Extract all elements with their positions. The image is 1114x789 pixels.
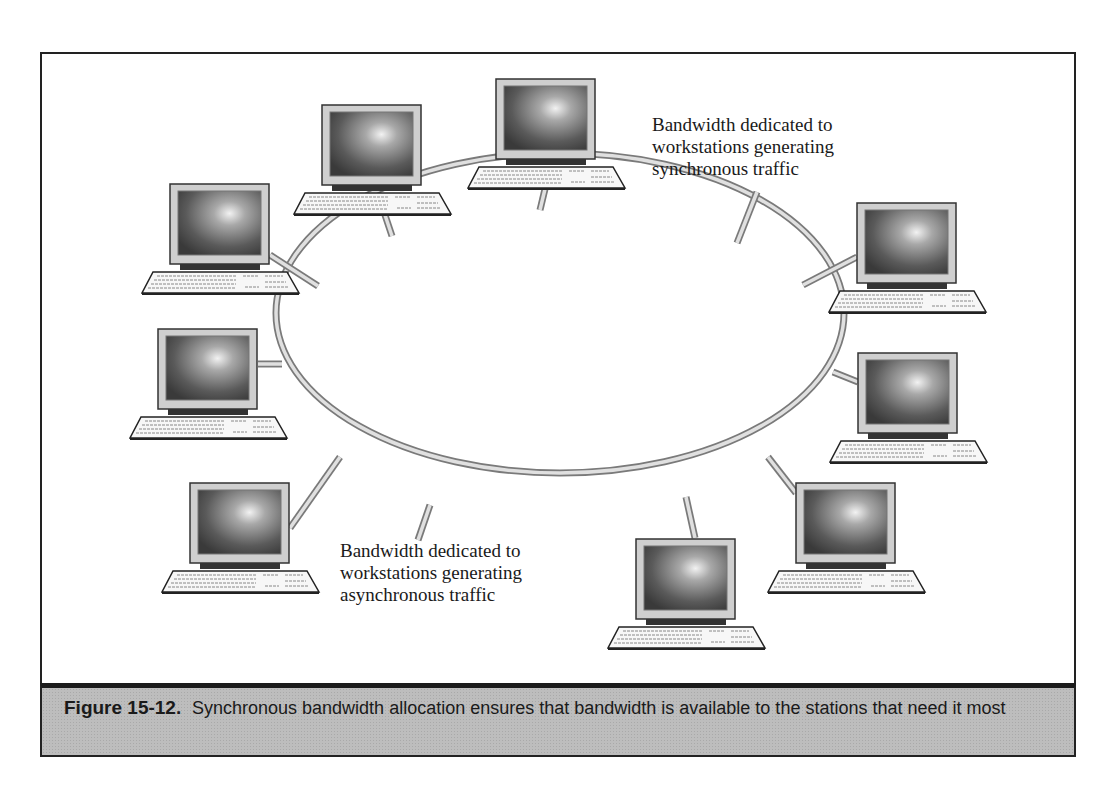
- connection-spoke: [385, 215, 392, 236]
- asynchronous-traffic-label: Bandwidth dedicated to workstations gene…: [340, 540, 522, 606]
- workstation-icon: [162, 483, 319, 593]
- network-diagram: [0, 0, 1114, 789]
- figure-caption: Figure 15-12. Synchronous bandwidth allo…: [40, 683, 1076, 757]
- connection-spoke: [768, 457, 796, 493]
- connection-spoke: [686, 497, 695, 538]
- workstation-icon: [768, 483, 925, 593]
- connection-spoke: [418, 505, 430, 540]
- workstation-icon: [130, 329, 287, 439]
- figure-caption-text: Synchronous bandwidth allocation ensures…: [192, 697, 1032, 720]
- workstation-icon: [142, 184, 299, 294]
- workstation-icon: [830, 353, 987, 463]
- connection-spoke: [833, 372, 858, 382]
- connection-spoke: [737, 192, 757, 243]
- figure-number: Figure 15-12.: [64, 697, 181, 719]
- synchronous-traffic-label: Bandwidth dedicated to workstations gene…: [652, 114, 834, 180]
- workstation-icon: [468, 79, 625, 189]
- workstation-icon: [608, 539, 765, 649]
- ring-connections: [258, 189, 858, 540]
- workstation-icon: [294, 105, 451, 215]
- connection-spoke: [540, 189, 545, 210]
- connection-spoke: [290, 457, 340, 528]
